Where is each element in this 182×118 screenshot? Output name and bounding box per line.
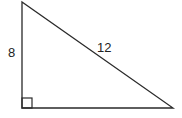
triangle-shape [22,2,173,108]
right-triangle-diagram: 8 12 [0,0,182,118]
vertical-leg-label: 8 [8,45,15,60]
right-angle-marker [22,98,32,108]
hypotenuse-label: 12 [97,40,111,55]
